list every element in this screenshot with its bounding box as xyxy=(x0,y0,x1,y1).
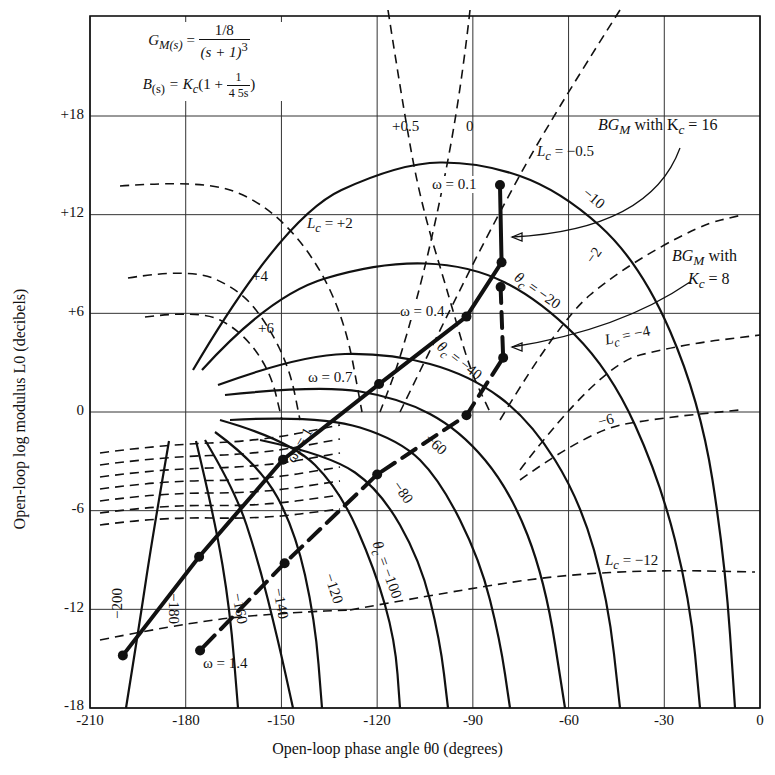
lc-contour-m4 xyxy=(520,335,760,470)
contour-curves xyxy=(100,10,760,708)
frequency-marker xyxy=(118,650,128,660)
theta-c-contour-m100 xyxy=(260,440,448,708)
frequency-marker xyxy=(496,282,506,292)
bgm-series xyxy=(118,148,690,660)
lc-label-p2: Lc = +2 xyxy=(307,215,353,236)
lc-contour-m2 xyxy=(500,215,742,420)
x-tick: -120 xyxy=(352,712,402,729)
x-tick: -210 xyxy=(65,712,115,729)
frequency-marker xyxy=(497,257,507,267)
kc8-annotation-line2: Kc = 8 xyxy=(688,270,730,292)
y-axis-title: Open-loop log modulus L0 (decibels) xyxy=(11,279,29,539)
lc-label-0: 0 xyxy=(466,118,474,135)
frequency-marker xyxy=(374,379,384,389)
frequency-marker xyxy=(495,180,505,190)
transfer-function-legend: GM(s) = 1/8(s + 1)3 B(s) = Kc(1 + 14 5s) xyxy=(104,22,294,101)
frequency-marker xyxy=(280,558,290,568)
omega-label-1.4: ω = 1.4 xyxy=(203,655,248,672)
frequency-marker xyxy=(195,645,205,655)
frequency-marker xyxy=(372,469,382,479)
x-tick: 0 xyxy=(735,712,775,729)
y-tick: 0 xyxy=(32,402,84,419)
tc-label-m200: −200 xyxy=(109,588,126,619)
lc-label-m05: Lc = −0.5 xyxy=(537,143,594,164)
x-tick: -90 xyxy=(448,712,498,729)
lc-contour-p4 xyxy=(128,273,300,420)
y-tick: -12 xyxy=(32,599,84,616)
omega-label-0.7: ω = 0.7 xyxy=(308,369,353,386)
lc-label-p6: +6 xyxy=(258,320,274,337)
tc-label-m180: −180 xyxy=(165,593,182,624)
y-tick: +18 xyxy=(32,106,84,123)
kc16-annotation: BGM with Kc = 16 xyxy=(598,116,717,138)
omega-label-0.1: ω = 0.1 xyxy=(432,176,477,193)
frequency-marker xyxy=(461,410,471,420)
y-tick: +6 xyxy=(32,303,84,320)
frequency-marker xyxy=(498,353,508,363)
x-tick: -150 xyxy=(256,712,306,729)
lc-label-p05: +0.5 xyxy=(392,118,419,135)
theta-c-contour-m60 xyxy=(225,389,565,708)
frequency-marker xyxy=(194,552,204,562)
lc-contour-inner xyxy=(100,509,340,525)
y-tick: +12 xyxy=(32,204,84,221)
omega-label-0.4: ω = 0.4 xyxy=(400,303,445,320)
lc-label-p4: +4 xyxy=(252,268,268,285)
kc8-annotation-line1: BGM with xyxy=(672,247,737,269)
y-tick: -6 xyxy=(32,500,84,517)
lc-label-m12: Lc = −12 xyxy=(605,552,658,573)
theta-c-contour-m200 xyxy=(126,441,169,708)
x-tick: -60 xyxy=(544,712,594,729)
lc-contour-inner xyxy=(100,467,340,489)
x-tick: -30 xyxy=(639,712,689,729)
kc8-arrowhead xyxy=(512,343,522,351)
x-tick: -180 xyxy=(161,712,211,729)
frequency-marker xyxy=(461,312,471,322)
lc-contour-m12 xyxy=(350,571,755,610)
x-axis-title: Open-loop phase angle θ0 (degrees) xyxy=(0,740,775,758)
